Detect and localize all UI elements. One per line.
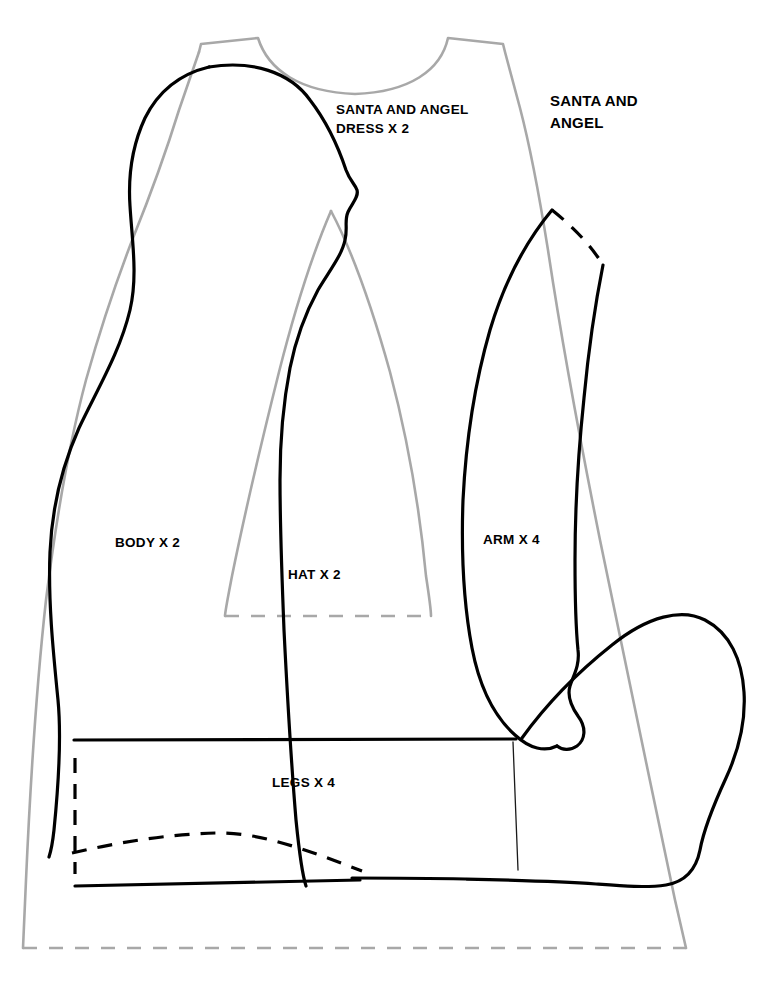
piece-santa-and-angel-dress [23,38,686,948]
label-set-line2: ANGEL [550,114,604,131]
piece-body [49,65,357,886]
legs-bottom-edge-path [75,880,360,886]
body-outline-path [209,65,357,886]
legs-top-edge-path [74,739,516,740]
label-dress-line1: SANTA AND ANGEL [336,102,469,117]
foot-outline-path [352,615,744,887]
label-body: BODY X 2 [115,535,180,550]
dress-outline-path [199,38,686,948]
hat-outline-path [331,211,431,616]
legs-division-line-path [513,742,518,870]
arm-outer-edge-path [462,210,557,749]
arm-inner-edge-path [557,265,603,749]
label-dress-line2: DRESS X 2 [336,121,409,136]
legs-placement-dashed-path [72,833,362,871]
label-legs: LEGS X 4 [272,775,335,790]
pattern-drawing: SANTA AND ANGEL DRESS X 2 SANTA AND ANGE… [0,0,765,983]
label-set-line1: SANTA AND [550,92,638,109]
hat-left-edge-path [225,211,331,616]
pattern-sheet: SANTA AND ANGEL DRESS X 2 SANTA AND ANGE… [0,0,765,983]
dress-left-seam-path [23,52,199,948]
label-hat: HAT X 2 [288,567,341,582]
arm-shoulder-dashed-path [552,210,603,265]
piece-arm [462,210,603,749]
label-arm: ARM X 4 [483,532,540,547]
piece-foot [352,615,744,887]
